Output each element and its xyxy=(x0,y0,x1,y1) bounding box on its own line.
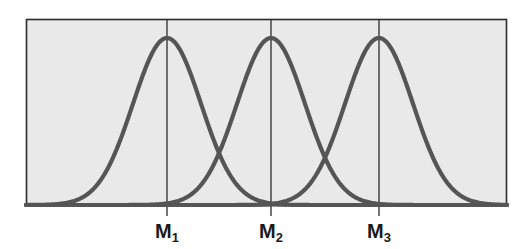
axis-label-m1-subscript: 1 xyxy=(172,230,179,245)
axis-label-m1: M1 xyxy=(155,221,179,241)
normal-distributions-chart xyxy=(0,0,522,249)
axis-label-m3-subscript: 3 xyxy=(384,230,391,245)
axis-label-m1-letter: M xyxy=(155,220,172,242)
axis-label-m3: M3 xyxy=(367,221,391,241)
axis-label-m3-letter: M xyxy=(367,220,384,242)
axis-label-m2-letter: M xyxy=(259,220,276,242)
plot-area-background xyxy=(27,20,507,206)
figure-container: M1 M2 M3 xyxy=(0,0,522,249)
axis-label-m2: M2 xyxy=(259,221,283,241)
axis-label-m2-subscript: 2 xyxy=(276,230,283,245)
